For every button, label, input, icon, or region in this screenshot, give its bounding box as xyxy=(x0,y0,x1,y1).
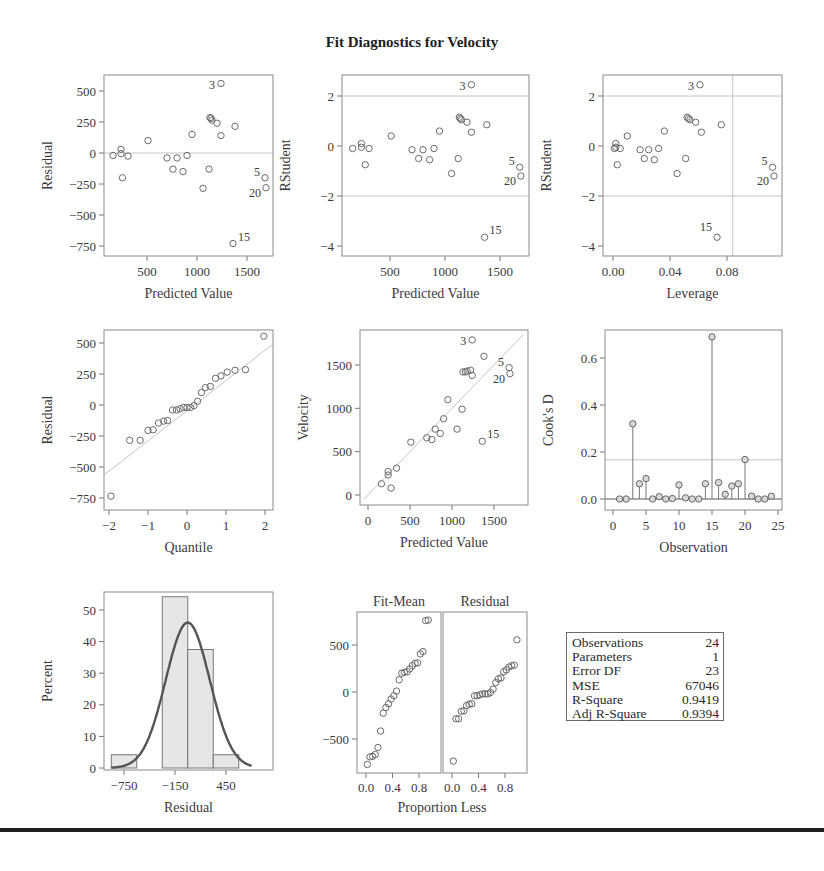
data-point xyxy=(262,175,268,181)
stat-row: Parameters1 xyxy=(572,650,719,664)
y-tick-label: −250 xyxy=(69,429,96,444)
data-point xyxy=(469,337,475,343)
x-tick-label: −2 xyxy=(102,518,116,533)
data-point xyxy=(431,145,437,151)
data-point xyxy=(242,366,248,372)
data-point xyxy=(682,155,688,161)
y-axis-label: Velocity xyxy=(296,394,311,441)
data-point xyxy=(224,369,230,375)
data-point xyxy=(232,123,238,129)
point-label: 5 xyxy=(509,154,515,168)
plot-area xyxy=(111,597,251,768)
x-tick-label: 1000 xyxy=(439,513,465,528)
data-point xyxy=(358,144,364,150)
stat-row: R-Square0.9419 xyxy=(572,693,719,707)
cooks-d-point xyxy=(636,481,642,487)
y-tick-label: 500 xyxy=(77,336,97,351)
bottom-rule xyxy=(0,828,824,832)
x-tick-label: 0.8 xyxy=(497,780,513,795)
data-point xyxy=(415,155,421,161)
data-point xyxy=(119,175,125,181)
stat-row: Adj R-Square0.9394 xyxy=(572,707,719,721)
data-point xyxy=(641,155,647,161)
cooks-d-point xyxy=(649,496,655,502)
panel-title: Fit-Mean xyxy=(373,594,425,609)
y-tick-label: 250 xyxy=(77,115,97,130)
y-tick-label: 0 xyxy=(90,146,97,161)
y-tick-label: −500 xyxy=(69,208,96,223)
point-label: 3 xyxy=(459,79,465,93)
cooks-d-point xyxy=(656,493,662,499)
cooks-d-point xyxy=(630,421,636,427)
y-axis-label: Cook's D xyxy=(541,394,556,446)
data-point xyxy=(230,240,236,246)
y-tick-label: 500 xyxy=(330,638,350,653)
y-tick-label: 30 xyxy=(83,666,96,681)
y-tick-label: −4 xyxy=(581,239,595,254)
data-point xyxy=(450,758,456,764)
data-point xyxy=(479,438,485,444)
data-point xyxy=(718,122,724,128)
cooks-d-point xyxy=(748,493,754,499)
data-point xyxy=(655,145,661,151)
data-point xyxy=(261,333,267,339)
stat-row: Error DF23 xyxy=(572,664,719,678)
cooks-d-point xyxy=(742,456,748,462)
y-tick-label: −2 xyxy=(581,189,595,204)
y-tick-label: 0 xyxy=(90,398,97,413)
y-tick-label: 0 xyxy=(90,761,97,776)
data-point xyxy=(448,170,454,176)
x-tick-label: 2 xyxy=(262,518,269,533)
residual-histogram-plot: −750−15045001020304050ResidualPercent xyxy=(40,592,273,815)
data-point xyxy=(771,173,777,179)
data-point xyxy=(692,119,698,125)
observed-vs-predicted-plot: 050010001500050010001500Predicted ValueV… xyxy=(296,330,528,550)
x-tick-label: −1 xyxy=(141,518,155,533)
stat-row: MSE67046 xyxy=(572,679,719,693)
data-point xyxy=(437,430,443,436)
point-label: 5 xyxy=(254,165,260,179)
x-axis-label: Quantile xyxy=(164,540,212,555)
x-tick-label: 500 xyxy=(137,264,157,279)
y-tick-label: 250 xyxy=(77,367,97,382)
y-tick-label: 20 xyxy=(83,697,96,712)
data-point xyxy=(507,370,513,376)
point-label: 15 xyxy=(700,220,712,234)
data-point xyxy=(645,147,651,153)
data-point xyxy=(468,82,474,88)
data-point xyxy=(366,145,372,151)
data-point xyxy=(436,128,442,134)
x-tick-label: −150 xyxy=(162,778,189,793)
plot-area xyxy=(104,80,273,246)
data-point xyxy=(409,147,415,153)
y-axis-label: Residual xyxy=(40,141,55,190)
y-tick-label: −750 xyxy=(69,491,96,506)
x-axis-label: Predicted Value xyxy=(145,286,233,301)
data-point xyxy=(661,128,667,134)
data-point xyxy=(388,485,394,491)
data-point xyxy=(375,744,381,750)
x-tick-label: 0.0 xyxy=(358,780,374,795)
data-point xyxy=(164,155,170,161)
x-tick-label: 0.0 xyxy=(444,780,460,795)
cooks-d-point xyxy=(676,482,682,488)
cooks-d-point xyxy=(669,495,675,501)
plot-area xyxy=(342,82,529,241)
y-tick-label: −500 xyxy=(69,460,96,475)
data-point xyxy=(125,153,131,159)
point-label: 15 xyxy=(487,427,499,441)
point-label: 20 xyxy=(493,372,505,386)
x-tick-label: 0 xyxy=(365,513,372,528)
point-label: 5 xyxy=(762,154,768,168)
data-point xyxy=(145,137,151,143)
y-tick-label: 0 xyxy=(589,139,596,154)
y-axis-label: RStudent xyxy=(278,139,293,191)
point-label: 15 xyxy=(490,223,502,237)
fit-statistics-table: Observations24 Parameters1 Error DF23 MS… xyxy=(566,632,724,721)
cooks-d-point xyxy=(722,491,728,497)
data-point xyxy=(388,133,394,139)
cooks-d-point xyxy=(682,495,688,501)
data-point xyxy=(420,147,426,153)
x-tick-label: 450 xyxy=(216,778,236,793)
x-axis-label: Proportion Less xyxy=(397,800,486,815)
